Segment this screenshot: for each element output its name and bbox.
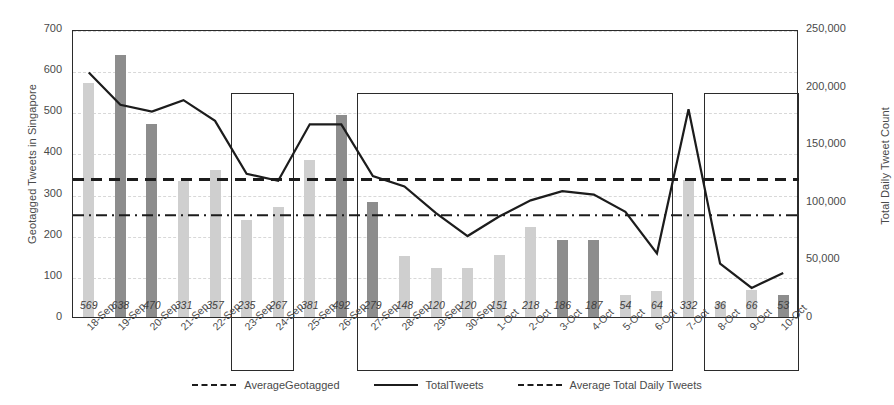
legend-swatch-solid [374, 380, 418, 390]
y-axis-left-tick-label: 600 [18, 63, 62, 75]
plot-area: 5696384703313572352673814922791481201201… [72, 30, 798, 318]
y-axis-left-tick-label: 200 [18, 228, 62, 240]
line-series [73, 31, 799, 319]
y-axis-left-tick-label: 400 [18, 145, 62, 157]
legend-label: Average Total Daily Tweets [570, 379, 702, 391]
y-axis-right-tick-label: 150,000 [806, 137, 876, 149]
y-axis-right-title: Total Daily Tweet Count [879, 56, 891, 276]
legend-swatch-dashed [518, 380, 562, 390]
legend-swatch-dash-dot [192, 380, 236, 390]
legend-item[interactable]: TotalTweets [374, 379, 484, 391]
legend-item[interactable]: AverageGeotagged [192, 379, 339, 391]
y-axis-left-tick-label: 500 [18, 104, 62, 116]
chart-legend: AverageGeotaggedTotalTweetsAverage Total… [0, 374, 894, 396]
y-axis-left-tick-label: 100 [18, 269, 62, 281]
y-axis-left-tick-label: 300 [18, 187, 62, 199]
y-axis-left-tick-label: 700 [18, 22, 62, 34]
y-axis-right-tick-label: 250,000 [806, 22, 876, 34]
y-axis-right-tick-label: 200,000 [806, 80, 876, 92]
y-axis-right-tick-label: 50,000 [806, 252, 876, 264]
chart-root: Geotagged Tweets in Singapore Total Dail… [0, 0, 894, 405]
legend-label: AverageGeotagged [244, 379, 339, 391]
y-axis-left-title: Geotagged Tweets in Singapore [26, 54, 38, 274]
legend-label: TotalTweets [426, 379, 484, 391]
y-axis-left-tick-label: 0 [18, 310, 62, 322]
legend-item[interactable]: Average Total Daily Tweets [518, 379, 702, 391]
y-axis-right-tick-label: 0 [806, 310, 876, 322]
y-axis-right-tick-label: 100,000 [806, 195, 876, 207]
